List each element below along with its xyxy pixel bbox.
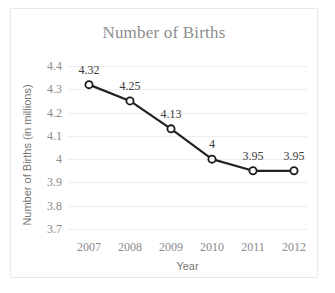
x-axis-tick-label: 2007 (77, 240, 101, 255)
data-point-marker (85, 81, 92, 88)
x-axis-tick-label: 2012 (282, 240, 306, 255)
data-point-marker (167, 125, 174, 132)
y-axis-tick-label: 3.7 (47, 222, 62, 237)
y-axis-tick-label: 4.3 (47, 82, 62, 97)
x-axis-tick-label: 2008 (118, 240, 142, 255)
data-point-marker (290, 167, 297, 174)
plot-area: 4.44.34.24.143.93.83.7 4.324.254.1343.95… (68, 66, 307, 229)
y-axis-title: Number of Births (in millions) (21, 70, 33, 240)
y-axis-tick-label: 3.9 (47, 175, 62, 190)
y-axis-tick-label: 4.4 (47, 59, 62, 74)
chart-figure: Number of Births Number of Births (in mi… (10, 8, 318, 278)
y-axis-tick-label: 4 (56, 152, 62, 167)
gridline (68, 229, 307, 230)
x-axis-tick-label: 2009 (159, 240, 183, 255)
data-point-marker (249, 167, 256, 174)
y-axis-tick-label: 3.8 (47, 198, 62, 213)
x-axis-title: Year (68, 260, 307, 272)
x-axis-tick-label: 2010 (200, 240, 224, 255)
x-axis-tick-label: 2011 (241, 240, 265, 255)
chart-title: Number of Births (11, 23, 317, 43)
data-point-label: 4.25 (120, 79, 141, 94)
y-axis-tick-label: 4.2 (47, 105, 62, 120)
y-axis-tick-label: 4.1 (47, 128, 62, 143)
data-point-label: 4 (209, 137, 215, 152)
births-line-series (68, 66, 307, 229)
data-point-marker (126, 97, 133, 104)
data-point-label: 4.32 (79, 63, 100, 78)
data-point-label: 3.95 (243, 149, 264, 164)
data-point-label: 3.95 (284, 149, 305, 164)
data-point-marker (208, 156, 215, 163)
data-point-label: 4.13 (161, 107, 182, 122)
